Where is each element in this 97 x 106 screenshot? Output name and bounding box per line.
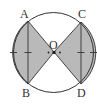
- label-o: O: [49, 38, 58, 52]
- circle-diagram: A B C D O: [0, 0, 97, 106]
- label-c: C: [78, 7, 86, 21]
- label-d: D: [77, 86, 86, 100]
- label-b: B: [22, 86, 30, 100]
- angle-mark-dot-right: [59, 52, 61, 54]
- label-a: A: [20, 7, 29, 21]
